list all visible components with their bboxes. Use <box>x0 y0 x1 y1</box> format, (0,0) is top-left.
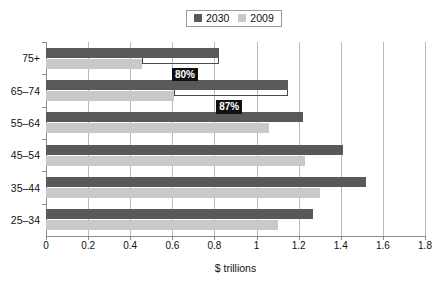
bar-2009-75+ <box>46 59 142 69</box>
bar-2009-35–44 <box>46 188 320 198</box>
bar-2030-45–54 <box>46 145 343 155</box>
x-tick-label: 1 <box>254 240 260 251</box>
y-axis-line <box>46 42 47 236</box>
x-tick-label: 1.2 <box>292 240 306 251</box>
legend-label-2009: 2009 <box>250 13 273 24</box>
y-tick-label: 65–74 <box>11 85 40 97</box>
x-axis-title: $ trillions <box>46 262 425 274</box>
bar-chart: 2030 2009 00.20.40.60.811.21.41.61.8 75+… <box>0 0 439 282</box>
y-tick <box>42 74 46 75</box>
x-tick-label: 1.4 <box>334 240 348 251</box>
x-tick-label: 1.6 <box>376 240 390 251</box>
bar-2030-35–44 <box>46 177 366 187</box>
y-tick <box>42 204 46 205</box>
x-tick-label: 0.2 <box>81 240 95 251</box>
bar-2009-65–74 <box>46 91 174 101</box>
gridline <box>257 42 258 236</box>
annotation-label: 80% <box>172 68 198 82</box>
annotation-bracket <box>174 90 288 96</box>
plot-area: 00.20.40.60.811.21.41.61.8 75+65–7455–64… <box>46 42 425 236</box>
annotation-label: 87% <box>216 100 242 114</box>
x-tick-label: 0.8 <box>207 240 221 251</box>
y-tick-label: 55–64 <box>11 117 40 129</box>
y-tick <box>42 171 46 172</box>
gridline <box>341 42 342 236</box>
gridline <box>214 42 215 236</box>
bar-2009-45–54 <box>46 156 305 166</box>
gridline <box>425 42 426 236</box>
bar-2030-25–34 <box>46 209 313 219</box>
x-tick-label: 0.6 <box>165 240 179 251</box>
legend-label-2030: 2030 <box>206 13 229 24</box>
bar-2009-25–34 <box>46 220 278 230</box>
bar-2030-55–64 <box>46 112 303 122</box>
legend-swatch-2030 <box>194 14 202 22</box>
x-tick-label: 0 <box>43 240 49 251</box>
legend-item-2030: 2030 <box>194 13 229 24</box>
x-tick-label: 1.8 <box>418 240 432 251</box>
gridline <box>88 42 89 236</box>
legend-item-2009: 2009 <box>238 13 273 24</box>
x-axis-line <box>46 236 425 237</box>
y-tick-label: 75+ <box>22 52 40 64</box>
y-tick <box>42 139 46 140</box>
bar-2030-75+ <box>46 48 219 58</box>
y-tick-label: 35–44 <box>11 182 40 194</box>
bar-2030-65–74 <box>46 80 288 90</box>
gridline <box>383 42 384 236</box>
x-tick-label: 0.4 <box>123 240 137 251</box>
chart-legend: 2030 2009 <box>186 10 282 27</box>
legend-swatch-2009 <box>238 14 246 22</box>
y-tick-label: 45–54 <box>11 149 40 161</box>
gridline <box>299 42 300 236</box>
bar-2009-55–64 <box>46 123 269 133</box>
y-tick <box>42 42 46 43</box>
gridline <box>130 42 131 236</box>
y-tick-label: 25–34 <box>11 214 40 226</box>
y-tick <box>42 107 46 108</box>
annotation-bracket <box>142 58 219 64</box>
